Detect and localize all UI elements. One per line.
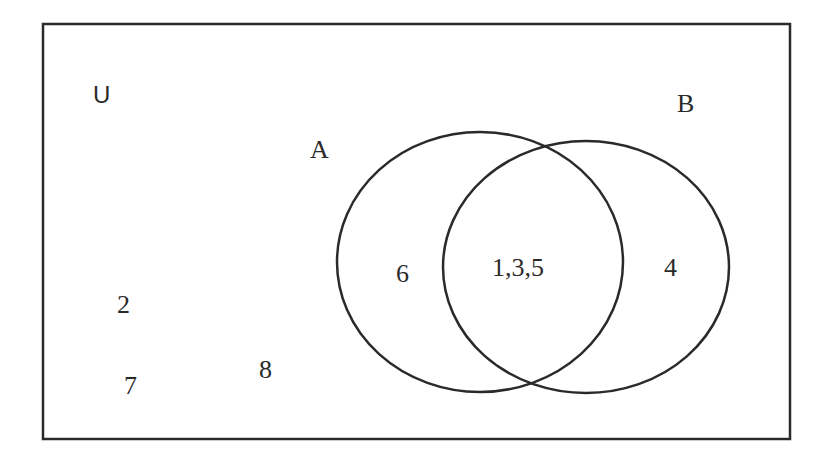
region-a-and-b: 1,3,5 [492,253,544,282]
universe-label: U [93,81,110,108]
set-b-circle [443,141,729,393]
venn-diagram: U A B 6 1,3,5 4 2 7 8 [0,0,826,463]
set-a-label: A [310,135,329,164]
region-a-only: 6 [396,259,409,288]
outside-element: 2 [117,290,130,319]
universe-rectangle [43,24,790,439]
region-b-only: 4 [664,253,677,282]
outside-element: 7 [124,371,137,400]
set-b-label: B [677,89,694,118]
outside-element: 8 [259,355,272,384]
